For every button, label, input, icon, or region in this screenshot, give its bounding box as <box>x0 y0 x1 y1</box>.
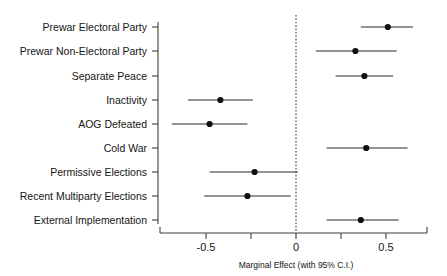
y-axis-label-inactivity: Inactivity <box>106 94 148 106</box>
y-axis-label-aog-defeated: AOG Defeated <box>78 118 147 130</box>
x-axis-title: Marginal Effect (with 95% C.I.) <box>239 260 354 270</box>
point-estimate-permissive-elections <box>252 169 258 175</box>
y-axis-label-prewar-non-electoral-party: Prewar Non-Electoral Party <box>20 45 148 57</box>
point-estimate-external-implementation <box>358 217 364 223</box>
point-estimate-prewar-non-electoral-party <box>352 48 358 54</box>
y-axis-label-cold-war: Cold War <box>104 142 148 154</box>
point-estimate-inactivity <box>217 97 223 103</box>
plot-background <box>0 0 447 276</box>
coefficient-plot: Prewar Electoral Party Prewar Non-Electo… <box>0 0 447 276</box>
point-estimate-aog-defeated <box>207 121 213 127</box>
x-tick-label-0-5: 0.5 <box>378 241 393 253</box>
x-tick-label-0: 0 <box>293 241 299 253</box>
y-axis-label-permissive-elections: Permissive Elections <box>50 166 147 178</box>
y-axis-label-prewar-electoral-party: Prewar Electoral Party <box>43 21 148 33</box>
y-axis-label-external-implementation: External Implementation <box>34 214 147 226</box>
y-axis-label-recent-multiparty-elections: Recent Multiparty Elections <box>20 190 147 202</box>
point-estimate-separate-peace <box>361 73 367 79</box>
point-estimate-recent-multiparty-elections <box>244 193 250 199</box>
point-estimate-cold-war <box>363 145 369 151</box>
x-tick-label-minus-0-5: -0.5 <box>197 241 216 253</box>
point-estimate-prewar-electoral-party <box>385 24 391 30</box>
y-axis-label-separate-peace: Separate Peace <box>72 70 147 82</box>
